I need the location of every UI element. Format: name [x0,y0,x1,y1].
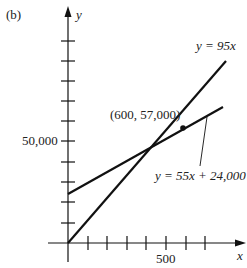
intersection-point [180,125,186,131]
label-leader-line [200,117,207,166]
y-tick-label-50000: 50,000 [22,133,58,148]
x-tick-label-500: 500 [156,251,176,266]
x-axis-arrow-icon [235,240,246,247]
y-axis-label: y [74,7,82,22]
panel-label: (b) [6,7,21,22]
y-axis-arrow-icon [65,6,72,17]
line1-label: y = 95x [194,38,236,53]
line2-label: y = 55x + 24,000 [153,168,246,183]
x-axis-label: x [236,248,243,263]
intersection-label: (600, 57,000) [110,107,180,122]
graph: (b) y x 50,000 500 (600, 57,000) y = 95x… [0,0,247,268]
